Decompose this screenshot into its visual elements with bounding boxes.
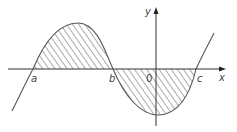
graph-diagram: a b 0 c x y [0, 0, 237, 132]
x-axis-label: x [218, 72, 225, 83]
root-c-label: c [197, 73, 203, 84]
y-axis-arrow-icon [154, 7, 159, 14]
x-axis-arrow-icon [219, 67, 226, 72]
y-axis-label: y [144, 6, 152, 17]
origin-label: 0 [146, 73, 152, 84]
root-a-label: a [31, 73, 37, 84]
root-b-label: b [109, 73, 115, 84]
